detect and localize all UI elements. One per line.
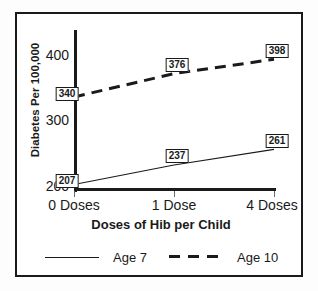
legend-entry-age7: Age 7 (45, 246, 147, 268)
value-label-age10-2: 398 (266, 44, 289, 58)
chart-legend: Age 7 Age 10 (17, 246, 305, 268)
value-label-age10-1: 376 (166, 58, 189, 72)
legend-swatch-dashed-line-icon (169, 251, 223, 263)
series-lines (17, 14, 305, 279)
value-label-age7-0: 207 (56, 174, 79, 188)
value-label-age10-0: 340 (56, 87, 79, 101)
legend-swatch-solid-line-icon (45, 251, 99, 263)
legend-label-age10: Age 10 (237, 250, 278, 265)
x-axis-tick-label-1: 1 Dose (152, 197, 196, 213)
value-label-age7-2: 261 (266, 134, 289, 148)
value-label-age7-1: 237 (166, 149, 189, 163)
chart-frame: 400 300 200 Diabetes Per 100,000 340 376… (15, 12, 303, 277)
legend-label-age7: Age 7 (113, 250, 147, 265)
chart-figure: 400 300 200 Diabetes Per 100,000 340 376… (0, 0, 318, 291)
plot-area: 400 300 200 Diabetes Per 100,000 340 376… (17, 14, 305, 279)
x-axis-title: Doses of Hib per Child (17, 217, 305, 232)
legend-entry-age10: Age 10 (169, 246, 278, 268)
x-axis-tick-label-2: 4 Doses (246, 197, 297, 213)
x-axis-tick-label-0: 0 Doses (48, 197, 99, 213)
